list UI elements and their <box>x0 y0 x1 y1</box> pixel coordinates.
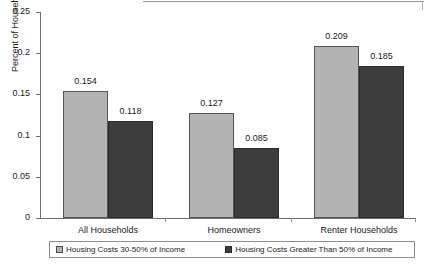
x-axis-label-all-households: All Households <box>43 224 173 237</box>
y-tick-label-0.25: 0.25 <box>12 5 30 18</box>
y-tick-0.25: 0.25 <box>36 12 40 13</box>
bar-value-label-homeowners-30-50: 0.127 <box>179 97 244 109</box>
legend-item-housing-costs-gt-50[interactable]: Housing Costs Greater Than 50% of Income <box>225 244 392 255</box>
x-tick-sep-2 <box>291 218 292 222</box>
bar-renter-households-30-50[interactable] <box>314 46 359 218</box>
legend-label-gt-50: Housing Costs Greater Than 50% of Income <box>235 244 392 255</box>
legend-swatch-icon-30-50 <box>56 246 63 253</box>
y-tick-label-0.1: 0.1 <box>17 129 30 142</box>
bar-all-households-gt-50[interactable] <box>108 121 153 218</box>
y-tick-label-0.2: 0.2 <box>17 46 30 59</box>
y-tick-0.05: 0.05 <box>36 177 40 178</box>
y-tick-0.2: 0.2 <box>36 53 40 54</box>
bar-homeowners-30-50[interactable] <box>189 113 234 218</box>
bar-renter-households-gt-50[interactable] <box>359 66 404 218</box>
legend-swatch-icon-gt-50 <box>225 246 232 253</box>
legend-label-30-50: Housing Costs 30-50% of Income <box>66 244 185 255</box>
y-axis-line <box>40 12 41 219</box>
bar-value-label-homeowners-gt-50: 0.085 <box>224 132 289 144</box>
x-axis-label-homeowners: Homeowners <box>169 224 299 237</box>
legend-item-housing-costs-30-50[interactable]: Housing Costs 30-50% of Income <box>56 244 185 255</box>
x-axis-label-renter-households: Renter Households <box>294 224 424 237</box>
chart-top-border-tick <box>422 1 423 10</box>
bar-value-label-all-households-gt-50: 0.118 <box>98 105 163 117</box>
bar-value-label-renter-households-gt-50: 0.185 <box>349 50 414 62</box>
y-tick-0: 0 <box>36 218 40 219</box>
y-tick-label-0.15: 0.15 <box>12 87 30 100</box>
y-tick-label-0: 0 <box>25 211 30 224</box>
y-tick-0.15: 0.15 <box>36 94 40 95</box>
bar-chart: Percent of Households 0.25 0.2 0.15 0.1 … <box>0 0 424 264</box>
chart-top-border <box>143 1 424 2</box>
plot-area: Percent of Households 0.25 0.2 0.15 0.1 … <box>40 12 416 218</box>
y-tick-0.1: 0.1 <box>36 136 40 137</box>
chart-legend: Housing Costs 30-50% of Income Housing C… <box>49 241 415 258</box>
y-tick-label-0.05: 0.05 <box>12 170 30 183</box>
x-tick-sep-1 <box>165 218 166 222</box>
bar-value-label-all-households-30-50: 0.154 <box>53 75 118 87</box>
x-axis-line <box>40 218 416 219</box>
bar-homeowners-gt-50[interactable] <box>234 148 279 218</box>
bar-value-label-renter-households-30-50: 0.209 <box>304 30 369 42</box>
x-tick-sep-3 <box>415 218 416 222</box>
